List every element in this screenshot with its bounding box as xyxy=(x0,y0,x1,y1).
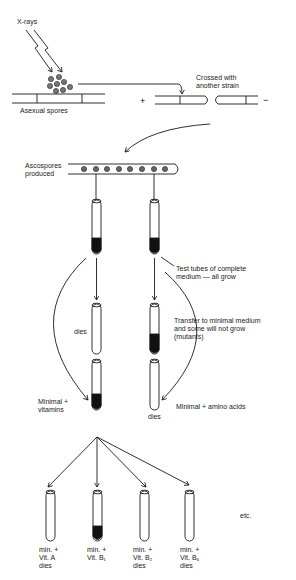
tube-vit-a-label: min. + Vit. A dies xyxy=(39,546,58,570)
dies-label-right: dies xyxy=(148,413,161,421)
tube-vit-b6-label: min. + Vit. B₆ dies xyxy=(180,546,199,570)
tube-vit-b2-label: min. + Vit. B₂ dies xyxy=(133,546,152,570)
xrays-label: X-rays xyxy=(17,18,37,26)
transfer-label: Transfer to minimal medium and some will… xyxy=(174,317,261,341)
asexual-spores-label: Asexual spores xyxy=(20,107,68,115)
tube-right-minimal xyxy=(150,303,159,354)
strain-a xyxy=(155,96,208,104)
cross-arrow xyxy=(78,84,182,94)
tube-vit-a xyxy=(46,490,55,541)
strain-b xyxy=(216,96,259,104)
etc-label: etc. xyxy=(240,512,251,520)
tube-left-vitamins xyxy=(92,359,101,410)
tube-left-minimal xyxy=(92,303,101,354)
ascus-arrow xyxy=(125,124,210,152)
svg-text:+: + xyxy=(140,96,145,106)
xray-arrows-icon xyxy=(26,30,62,72)
tube-vit-b1-label: min. + Vit. B₁ xyxy=(87,546,106,562)
tube-left-complete xyxy=(92,199,101,254)
spore-cluster-icon xyxy=(47,74,72,93)
minimal-vitamins-label: Minimal + vitamins xyxy=(38,398,68,414)
test-tubes-label: Test tubes of complete medium — all grow xyxy=(176,265,246,281)
tube-vit-b2 xyxy=(140,490,149,541)
ascospores-label: Ascospores produced xyxy=(25,162,62,178)
tube-vit-b1 xyxy=(93,490,102,541)
asexual-hypha xyxy=(12,94,105,103)
tube-right-complete xyxy=(150,199,159,254)
tube-right-amino xyxy=(150,359,159,410)
minimal-amino-label: Minimal + amino acids xyxy=(176,403,245,411)
tube-vit-b6 xyxy=(185,490,194,541)
ascospores-icon xyxy=(81,166,167,171)
dies-label-left: dies xyxy=(74,328,87,336)
svg-text:−: − xyxy=(263,95,268,105)
fan-arrows xyxy=(48,437,189,487)
crossed-label: Crossed with another strain xyxy=(196,74,239,90)
neurospora-mutant-diagram: + − xyxy=(0,0,296,580)
